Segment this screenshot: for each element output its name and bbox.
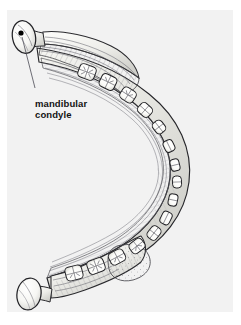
figure-root: mandibular condyle [0,0,241,325]
upper-ramus [10,19,139,94]
callout-label: mandibular condyle [35,99,115,120]
mandible-illustration [7,10,233,312]
condyle-marker-dot [18,30,23,35]
illustration-panel: mandibular condyle [7,10,233,312]
upper-condyle-head [10,19,39,56]
